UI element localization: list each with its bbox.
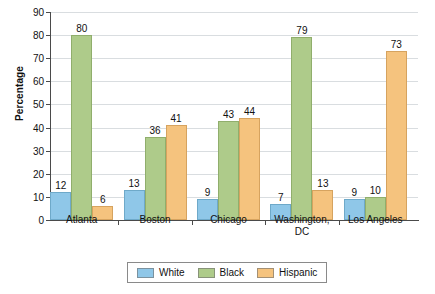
bar-value-label: 44 xyxy=(244,106,255,117)
x-separator-tick xyxy=(265,220,266,225)
chart-legend: WhiteBlackHispanic xyxy=(127,262,327,283)
plot-area: 0102030405060708090 12806133641943447791… xyxy=(51,12,418,220)
legend-label: Hispanic xyxy=(279,267,317,278)
y-tick-label: 90 xyxy=(33,7,44,18)
bar[interactable]: 73 xyxy=(386,51,407,220)
bar[interactable]: 36 xyxy=(145,137,166,220)
bar[interactable]: 44 xyxy=(239,118,260,220)
bar[interactable]: 43 xyxy=(218,121,239,220)
bar-value-label: 7 xyxy=(278,192,284,203)
x-separator-tick xyxy=(192,220,193,225)
bar-group: 94344 xyxy=(197,12,260,220)
bar-value-label: 73 xyxy=(391,39,402,50)
y-tick-label: 70 xyxy=(33,53,44,64)
bar-value-label: 36 xyxy=(150,125,161,136)
bar-value-label: 80 xyxy=(76,23,87,34)
x-category-label: Los Angeles xyxy=(348,214,403,226)
bar-value-label: 41 xyxy=(171,113,182,124)
legend-item[interactable]: Hispanic xyxy=(257,267,317,278)
x-separator-tick xyxy=(118,220,119,225)
y-tick-label: 80 xyxy=(33,30,44,41)
x-category-label: Boston xyxy=(140,214,171,226)
bar-group: 133641 xyxy=(124,12,187,220)
bar-value-label: 12 xyxy=(55,180,66,191)
bar-value-label: 9 xyxy=(205,187,211,198)
legend-swatch-icon xyxy=(257,268,274,278)
legend-swatch-icon xyxy=(198,268,215,278)
x-category-label: Washington, DC xyxy=(274,214,329,237)
bar[interactable]: 80 xyxy=(71,35,92,220)
y-tick-label: 40 xyxy=(33,122,44,133)
bar-value-label: 13 xyxy=(129,178,140,189)
bar-value-label: 6 xyxy=(100,194,106,205)
y-tick-label: 0 xyxy=(38,215,44,226)
x-category-label: Chicago xyxy=(210,214,247,226)
y-tick-label: 60 xyxy=(33,76,44,87)
legend-swatch-icon xyxy=(137,268,154,278)
legend-label: White xyxy=(159,267,185,278)
bar-chart: Percentage 0102030405060708090 128061336… xyxy=(0,0,435,294)
legend-item[interactable]: Black xyxy=(198,267,244,278)
bar[interactable]: 79 xyxy=(291,37,312,220)
x-separator-tick xyxy=(339,220,340,225)
bar-group: 91073 xyxy=(344,12,407,220)
bar-value-label: 79 xyxy=(296,25,307,36)
y-tick-label: 30 xyxy=(33,145,44,156)
y-tick-label: 50 xyxy=(33,99,44,110)
legend-item[interactable]: White xyxy=(137,267,185,278)
y-tick-label: 20 xyxy=(33,168,44,179)
bar-group: 77913 xyxy=(270,12,333,220)
y-tick-label: 10 xyxy=(33,191,44,202)
bar-value-label: 9 xyxy=(352,187,358,198)
bar[interactable]: 41 xyxy=(166,125,187,220)
bar-value-label: 43 xyxy=(223,109,234,120)
bar-value-label: 10 xyxy=(370,185,381,196)
bar-value-label: 13 xyxy=(317,178,328,189)
x-category-label: Atlanta xyxy=(66,214,97,226)
bar-group: 12806 xyxy=(50,12,113,220)
y-axis-title: Percentage xyxy=(14,39,25,149)
legend-label: Black xyxy=(220,267,244,278)
